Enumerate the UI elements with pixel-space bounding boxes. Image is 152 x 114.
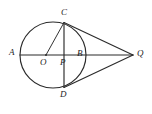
segment-c-q — [64, 23, 133, 56]
label-p: P — [60, 58, 66, 67]
geometry-diagram: A B C D O P Q — [0, 0, 152, 114]
label-b: B — [77, 49, 83, 58]
center-point-o — [45, 54, 47, 56]
label-d: D — [60, 90, 67, 99]
geometry-canvas — [0, 0, 152, 114]
radius-o-c — [46, 23, 64, 56]
label-o: O — [40, 58, 47, 67]
label-q: Q — [137, 49, 144, 58]
segment-d-q — [64, 55, 133, 88]
label-a: A — [9, 48, 15, 57]
label-c: C — [61, 8, 67, 17]
